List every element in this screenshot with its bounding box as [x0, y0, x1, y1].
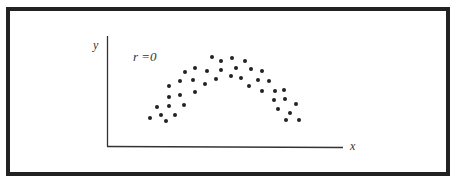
data-point — [239, 76, 243, 80]
data-point — [260, 69, 264, 73]
data-point — [219, 68, 223, 72]
data-point — [230, 56, 234, 60]
x-axis-line — [107, 147, 343, 148]
data-point — [214, 77, 218, 81]
data-point — [178, 79, 182, 83]
data-point — [183, 70, 187, 74]
data-point — [193, 90, 197, 94]
data-point — [205, 69, 209, 73]
data-point — [284, 118, 288, 122]
data-point — [294, 102, 298, 106]
data-point — [167, 95, 171, 99]
data-point — [173, 113, 177, 117]
data-point — [260, 89, 264, 93]
data-point — [178, 93, 182, 97]
data-point — [283, 97, 287, 101]
data-point — [210, 55, 214, 59]
data-point — [182, 103, 186, 107]
data-point — [249, 67, 253, 71]
data-point — [167, 104, 171, 108]
y-axis-label: y — [93, 39, 98, 51]
data-point — [155, 105, 159, 109]
data-point — [272, 98, 276, 102]
data-point — [148, 116, 152, 120]
data-point — [203, 82, 207, 86]
data-point — [247, 84, 251, 88]
data-point — [159, 113, 163, 117]
data-point — [167, 84, 171, 88]
data-point — [276, 107, 280, 111]
scatter-plot — [0, 0, 457, 178]
data-point — [267, 79, 271, 83]
data-points — [148, 55, 301, 123]
data-point — [234, 66, 238, 70]
data-point — [191, 78, 195, 82]
data-point — [273, 89, 277, 93]
x-axis-label: x — [350, 140, 355, 152]
data-point — [219, 59, 223, 63]
correlation-annotation: r =0 — [133, 50, 157, 63]
data-point — [193, 66, 197, 70]
data-point — [164, 119, 168, 123]
data-point — [288, 111, 292, 115]
data-point — [282, 88, 286, 92]
data-point — [256, 78, 260, 82]
data-point — [297, 118, 301, 122]
data-point — [243, 59, 247, 63]
data-point — [229, 74, 233, 78]
